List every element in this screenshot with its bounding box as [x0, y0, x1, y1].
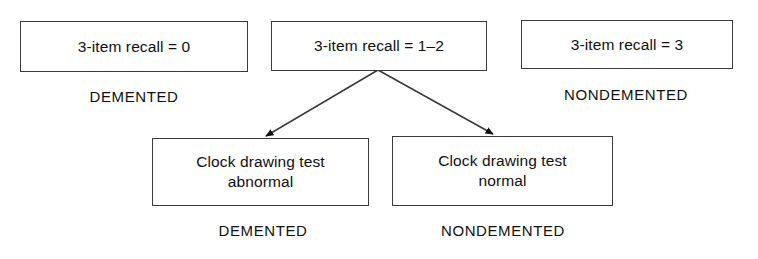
node-recall-1-2-label: 3-item recall = 1–2 — [308, 36, 450, 56]
node-recall-3-label: 3-item recall = 3 — [565, 35, 689, 55]
outcome-label-clock-abnormal: DEMENTED — [219, 222, 308, 239]
edge-to-clock-normal — [378, 70, 493, 134]
node-recall-0-label: 3-item recall = 0 — [72, 37, 196, 57]
node-clock-drawing-normal[interactable]: Clock drawing test normal — [392, 136, 613, 206]
node-recall-3[interactable]: 3-item recall = 3 — [521, 20, 733, 69]
outcome-label-recall-3: NONDEMENTED — [564, 86, 688, 103]
node-clock-drawing-normal-label: Clock drawing test normal — [432, 151, 572, 191]
outcome-label-clock-normal: NONDEMENTED — [441, 222, 565, 239]
outcome-label-recall-0: DEMENTED — [90, 88, 179, 105]
node-clock-drawing-abnormal-label: Clock drawing test abnormal — [190, 152, 330, 192]
node-recall-0[interactable]: 3-item recall = 0 — [20, 21, 248, 72]
decision-tree-diagram: 3-item recall = 0 3-item recall = 1–2 3-… — [0, 0, 758, 259]
edge-to-clock-abnormal — [266, 70, 378, 136]
node-clock-drawing-abnormal[interactable]: Clock drawing test abnormal — [152, 138, 369, 206]
node-recall-1-2[interactable]: 3-item recall = 1–2 — [271, 21, 487, 71]
